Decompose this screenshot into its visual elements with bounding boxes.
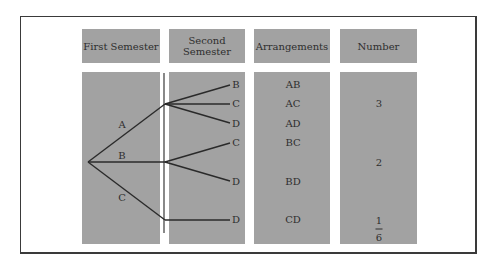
arrangement-bc: BC [285, 138, 300, 148]
arrangement-cd: CD [285, 215, 301, 225]
fraction-numerator: 1 [376, 216, 382, 226]
branch-ad [165, 104, 230, 123]
number-group-b: 2 [376, 158, 382, 168]
leaf-label-ab: B [232, 80, 239, 90]
leaf-label-ad: D [232, 119, 240, 129]
arrangement-ab: AB [286, 80, 301, 90]
fraction-denominator: 6 [376, 233, 382, 243]
branch-c [88, 162, 165, 220]
leaf-label-bc: C [232, 138, 240, 148]
branch-label-a: A [118, 120, 125, 130]
leaf-label-ac: C [232, 99, 240, 109]
branch-bc [165, 143, 230, 162]
arrangement-ad: AD [285, 119, 300, 129]
branch-label-b: B [118, 151, 125, 161]
leaf-label-cd: D [232, 215, 240, 225]
number-group-c-fraction: 1 6 [376, 216, 383, 243]
leaf-label-bd: D [232, 177, 240, 187]
fraction-bar [376, 229, 383, 230]
arrangement-ac: AC [286, 99, 301, 109]
branch-bd [165, 162, 230, 181]
branch-ab [165, 85, 230, 104]
number-group-a: 3 [376, 99, 382, 109]
arrangement-bd: BD [285, 177, 300, 187]
tree-diagram [0, 0, 499, 268]
branch-label-c: C [118, 193, 126, 203]
branch-a [88, 104, 165, 162]
